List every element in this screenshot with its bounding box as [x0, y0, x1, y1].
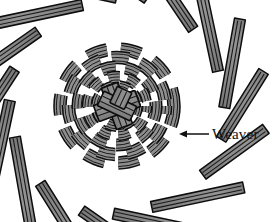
- basket-weave-figure: Weaver: [0, 0, 272, 222]
- weave-illustration: Weaver: [0, 0, 272, 222]
- weaver-label: Weaver: [212, 126, 259, 142]
